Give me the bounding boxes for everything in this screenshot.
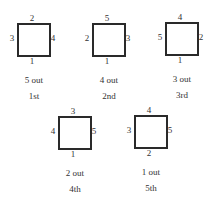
left-edge-label: 3 [124,126,134,135]
right-edge-label: 5 [165,126,175,135]
top-edge-label: 5 [102,14,112,23]
right-edge-label: 5 [89,127,99,136]
order-caption: 1st [4,91,64,101]
left-edge-label: 5 [155,33,165,42]
order-caption: 3rd [152,90,212,100]
bottom-edge-label: 1 [175,56,185,65]
out-caption: 3 out [152,74,212,84]
out-caption: 2 out [45,168,105,178]
right-edge-label: 3 [123,34,133,43]
bottom-edge-label: 1 [27,57,37,66]
square-figure-3: 4 5 2 1 3 out 3rd [152,12,212,102]
square [134,115,168,149]
bottom-edge-label: 1 [68,150,78,159]
top-edge-label: 3 [68,107,78,116]
order-caption: 4th [45,184,105,194]
out-caption: 5 out [4,75,64,85]
square-figure-1: 2 3 4 1 5 out 1st [4,13,64,103]
order-caption: 2nd [79,91,139,101]
bottom-edge-label: 1 [102,57,112,66]
square-figure-5: 4 3 5 2 1 out 5th [121,105,181,195]
left-edge-label: 3 [7,34,17,43]
square [92,23,126,57]
square-figure-4: 3 4 5 1 2 out 4th [45,106,105,196]
square [17,23,51,57]
square [58,116,92,150]
order-caption: 5th [121,183,181,193]
square-figure-2: 5 2 3 1 4 out 2nd [79,13,139,103]
left-edge-label: 2 [82,34,92,43]
top-edge-label: 4 [144,106,154,115]
out-caption: 4 out [79,75,139,85]
top-edge-label: 4 [175,13,185,22]
out-caption: 1 out [121,167,181,177]
square [165,22,199,56]
bottom-edge-label: 2 [144,149,154,158]
left-edge-label: 4 [48,127,58,136]
right-edge-label: 2 [196,33,206,42]
right-edge-label: 4 [48,34,58,43]
top-edge-label: 2 [27,14,37,23]
